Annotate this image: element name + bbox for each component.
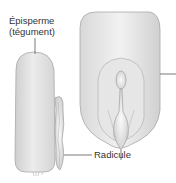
radicule-label: Radicule: [94, 149, 131, 160]
episperme-label-line2: (tégument): [9, 26, 55, 37]
seed-side-view: [15, 52, 64, 176]
episperme-label-line1: Épisperme: [9, 15, 55, 26]
seed-front-view: [80, 12, 160, 150]
episperme-label: Épisperme (tégument): [9, 15, 55, 37]
